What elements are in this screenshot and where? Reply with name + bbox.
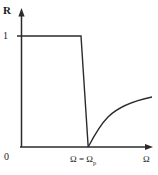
plot-canvas (0, 0, 158, 175)
curve-asymptotic-rise (88, 97, 152, 147)
curve-plateau-and-drop (22, 36, 88, 147)
resonance-label-main: Ω = Ω (70, 154, 93, 164)
x-axis-label: Ω (143, 155, 150, 164)
y-tick-label-one: 1 (3, 31, 8, 41)
x-axis-arrowhead (145, 144, 153, 150)
y-axis-arrowhead (18, 8, 24, 17)
reflectivity-plot-figure: R 1 0 Ω = Ωp Ω (0, 0, 158, 175)
resonance-frequency-label: Ω = Ωp (70, 155, 96, 166)
origin-label: 0 (4, 152, 9, 162)
resonance-label-subscript: p (93, 159, 96, 166)
y-axis-label: R (3, 5, 11, 16)
